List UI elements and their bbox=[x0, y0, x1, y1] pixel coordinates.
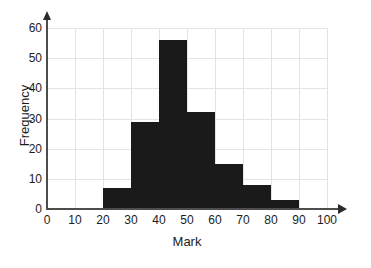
x-tick-label: 60 bbox=[200, 213, 230, 228]
bar-series bbox=[47, 28, 327, 209]
y-tick-label: 60 bbox=[12, 22, 42, 34]
plot-area bbox=[47, 28, 327, 209]
x-tick-label: 90 bbox=[284, 213, 314, 228]
histogram-bar bbox=[103, 188, 131, 209]
x-tick-label: 10 bbox=[60, 213, 90, 228]
y-tick-label: 0 bbox=[12, 203, 42, 215]
gridline-vertical bbox=[327, 28, 328, 209]
histogram-bar bbox=[187, 112, 215, 209]
x-tick-label: 70 bbox=[228, 213, 258, 228]
x-axis-title: Mark bbox=[47, 234, 327, 249]
x-tick-label: 30 bbox=[116, 213, 146, 228]
histogram-figure: 0102030405060708090100 0102030405060 Mar… bbox=[0, 0, 371, 268]
histogram-bar bbox=[131, 122, 159, 209]
x-tick-label: 20 bbox=[88, 213, 118, 228]
x-tick-label: 50 bbox=[172, 213, 202, 228]
y-axis-line bbox=[46, 19, 48, 210]
histogram-bar bbox=[159, 40, 187, 209]
histogram-bar bbox=[215, 164, 243, 209]
y-axis-title: Frequency bbox=[17, 56, 32, 176]
x-tick-label: 100 bbox=[312, 213, 342, 228]
y-axis-arrow-icon bbox=[43, 11, 51, 20]
x-axis-line bbox=[47, 208, 339, 210]
histogram-bar bbox=[243, 185, 271, 209]
x-tick-label: 80 bbox=[256, 213, 286, 228]
x-tick-label: 40 bbox=[144, 213, 174, 228]
